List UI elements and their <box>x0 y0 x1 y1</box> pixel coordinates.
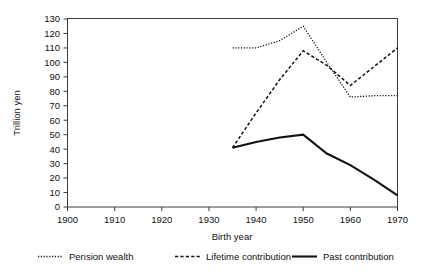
x-tick-label: 1930 <box>198 214 219 225</box>
y-tick-label: 80 <box>49 86 60 97</box>
y-tick-label: 60 <box>49 115 60 126</box>
line-chart: 0102030405060708090100110120130 19001910… <box>0 0 424 277</box>
y-tick-label: 110 <box>45 42 60 53</box>
y-tick-label: 130 <box>44 13 60 24</box>
x-tick-label: 1970 <box>387 214 408 225</box>
y-tick-label: 0 <box>55 201 60 212</box>
y-tick-label: 20 <box>49 172 60 183</box>
y-tick-label: 120 <box>44 28 60 39</box>
x-tick-label: 1940 <box>246 214 267 225</box>
chart-legend: Pension wealthLifetime contributionPast … <box>38 251 394 262</box>
legend-label: Past contribution <box>323 251 394 262</box>
y-tick-label: 40 <box>49 144 60 155</box>
x-axis-title: Birth year <box>212 231 253 242</box>
y-axis-title: Trillion yen <box>11 90 22 136</box>
x-tick-label: 1950 <box>293 214 314 225</box>
x-tick-label: 1910 <box>104 214 125 225</box>
legend-label: Pension wealth <box>69 251 133 262</box>
y-tick-label: 30 <box>49 158 60 169</box>
y-tick-label: 100 <box>44 57 60 68</box>
legend-label: Lifetime contribution <box>206 251 291 262</box>
chart-container: 0102030405060708090100110120130 19001910… <box>0 0 424 277</box>
y-tick-label: 50 <box>49 129 60 140</box>
y-tick-label: 10 <box>49 187 60 198</box>
y-tick-label: 90 <box>49 71 60 82</box>
x-tick-label: 1960 <box>340 214 361 225</box>
y-tick-label: 70 <box>49 100 60 111</box>
x-tick-label: 1920 <box>151 214 172 225</box>
x-tick-label: 1900 <box>57 214 78 225</box>
